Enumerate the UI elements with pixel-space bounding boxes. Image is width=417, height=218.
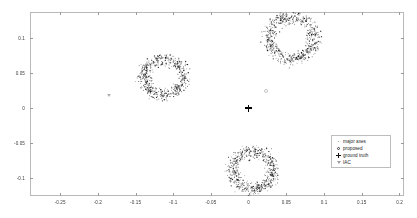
x-tick-mark (286, 193, 287, 196)
y-tick-mark-right (401, 143, 404, 144)
y-tick-mark (30, 143, 33, 144)
y-tick-label: 0 (0, 106, 25, 111)
x-tick-label: 0.15 (357, 200, 366, 205)
x-tick-label: -0.25 (55, 200, 66, 205)
x-tick-mark-top (362, 12, 363, 15)
y-tick-mark-right (401, 73, 404, 74)
y-tick-mark (30, 178, 33, 179)
legend-entry-iac: IAC (334, 159, 388, 166)
y-tick-mark-right (401, 38, 404, 39)
x-tick-label: -0.1 (169, 200, 177, 205)
y-tick-label: 0.05 (0, 71, 25, 76)
x-tick-label: -0.2 (94, 200, 102, 205)
scatter-plot-figure: -0.25-0.2-0.15-0.1-0.0500.050.10.150.2 0… (0, 0, 417, 218)
dot-icon (334, 138, 343, 145)
y-tick-mark (30, 38, 33, 39)
scatter-points-layer (30, 12, 404, 196)
triangle-down-icon-glyph (337, 161, 341, 164)
legend-entry-ground-truth: ground truth (334, 152, 388, 159)
x-tick-mark (249, 193, 250, 196)
chart-legend: major axesproposedground truthIAC (331, 135, 391, 168)
x-tick-mark-top (249, 12, 250, 15)
x-tick-mark-top (286, 12, 287, 15)
y-tick-mark (30, 108, 33, 109)
x-tick-mark (211, 193, 212, 196)
x-tick-mark-top (324, 12, 325, 15)
legend-label: proposed (343, 145, 363, 152)
plus-icon (334, 152, 343, 159)
x-tick-label: 0 (247, 200, 250, 205)
circle-icon (334, 145, 343, 152)
x-tick-mark (399, 193, 400, 196)
triangle-down-marker-IAC (107, 94, 111, 97)
legend-entry-major-axes: major axes (334, 138, 388, 145)
x-tick-mark (362, 193, 363, 196)
x-tick-label: 0.1 (321, 200, 328, 205)
legend-label: IAC (343, 159, 351, 166)
dot-icon-glyph (338, 141, 340, 143)
x-tick-label: 0.2 (396, 200, 403, 205)
plus-marker-ground-truth (245, 105, 252, 112)
x-tick-mark-top (173, 12, 174, 15)
y-tick-mark (30, 73, 33, 74)
y-tick-label: -0.1 (0, 176, 25, 181)
circle-icon-glyph (337, 147, 340, 150)
y-tick-mark-right (401, 108, 404, 109)
x-tick-mark (60, 193, 61, 196)
x-tick-mark (136, 193, 137, 196)
x-tick-mark-top (399, 12, 400, 15)
x-tick-label: -0.15 (130, 200, 141, 205)
x-tick-mark (98, 193, 99, 196)
legend-label: major axes (343, 138, 366, 145)
circle-marker-proposed (264, 89, 268, 93)
x-tick-mark-top (60, 12, 61, 15)
x-tick-mark-top (136, 12, 137, 15)
x-tick-mark-top (98, 12, 99, 15)
legend-entry-proposed: proposed (334, 145, 388, 152)
x-tick-mark-top (211, 12, 212, 15)
triangle-down-icon (334, 159, 343, 166)
y-tick-label: 0.1 (0, 36, 25, 41)
x-tick-label: -0.05 (205, 200, 216, 205)
plus-icon-glyph (336, 153, 341, 158)
x-tick-label: 0.05 (282, 200, 291, 205)
x-tick-mark (173, 193, 174, 196)
y-tick-mark-right (401, 178, 404, 179)
legend-label: ground truth (343, 152, 368, 159)
y-tick-label: -0.05 (0, 141, 25, 146)
x-tick-mark (324, 193, 325, 196)
